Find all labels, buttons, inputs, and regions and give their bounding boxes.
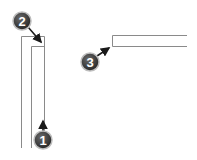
bar-outline — [113, 36, 188, 47]
arrow-icon — [97, 48, 109, 56]
callout-1: 1 — [34, 121, 52, 149]
arrow-icon — [28, 27, 41, 42]
horizontal-bar-shape — [113, 36, 188, 47]
callout-diagram: 2 3 1 — [0, 0, 197, 160]
callout-number: 2 — [18, 14, 25, 29]
callout-number: 1 — [39, 133, 46, 148]
callout-number: 3 — [86, 55, 93, 70]
callout-2: 2 — [13, 12, 41, 42]
callout-3: 3 — [81, 48, 109, 71]
